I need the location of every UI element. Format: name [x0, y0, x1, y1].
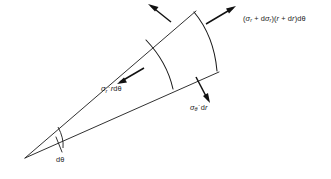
- dtheta-leader-line: [56, 137, 62, 152]
- lower-radial-ray: [25, 72, 219, 158]
- figure-canvas: (σr + dσr)(r + dr)dθ σr·rdθ σθ·dr dθ: [0, 0, 331, 179]
- hoop-force-label: σθ·dr: [190, 104, 208, 112]
- outer-force-sigma2: σ: [265, 14, 270, 23]
- outer-force-plus: + d: [252, 14, 265, 23]
- outer-force-theta: θ: [301, 14, 305, 23]
- hoop-dot: ·: [198, 102, 201, 109]
- inner-radial-force-label: σr·rdθ: [101, 85, 122, 93]
- hoop-force-arrow: [196, 77, 210, 103]
- inner-force-dot: ·: [107, 84, 110, 91]
- inner-force-sigma: σ: [101, 84, 106, 93]
- subtended-angle-label: dθ: [56, 156, 64, 164]
- outer-force-sub-r: r: [250, 17, 252, 23]
- hoop-sigma: σ: [190, 103, 195, 112]
- inner-arc-boundary: [146, 40, 173, 89]
- hoop-r: r: [205, 103, 208, 112]
- outer-radial-force-arrow: [206, 6, 236, 24]
- inner-force-theta: θ: [118, 84, 122, 93]
- outer-radial-force-label: (σr + dσr)(r + dr)dθ: [243, 15, 306, 23]
- outer-arc-boundary: [194, 12, 217, 71]
- outer-force-plus2: + d: [279, 14, 292, 23]
- dtheta-theta: θ: [60, 155, 64, 164]
- upper-face-arrow: [148, 4, 171, 22]
- stress-wedge-diagram: [0, 0, 331, 179]
